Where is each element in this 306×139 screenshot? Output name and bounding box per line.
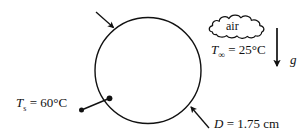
diameter-value: = 1.75 cm	[227, 116, 279, 131]
ambient-temperature-subscript: ∞	[218, 50, 225, 60]
gravity-label: g	[290, 53, 297, 66]
surface-temperature-label: Ts = 60°C	[16, 96, 67, 113]
incoming-flow-arrow	[96, 12, 114, 28]
surface-temperature-subscript: s	[23, 104, 26, 113]
diameter-symbol: D	[214, 116, 223, 131]
figure-canvas: air T∞ = 25°C g Ts = 60°C D = 1.75 cm	[0, 0, 306, 139]
diameter-label: D = 1.75 cm	[214, 117, 279, 130]
ambient-temperature-label: T∞ = 25°C	[211, 43, 266, 60]
air-label: air	[226, 20, 239, 32]
surface-temperature-value: = 60°C	[30, 95, 67, 110]
sphere-outline	[95, 18, 201, 124]
diameter-leader-arrow	[191, 107, 209, 128]
ambient-temperature-value: = 25°C	[228, 42, 265, 57]
